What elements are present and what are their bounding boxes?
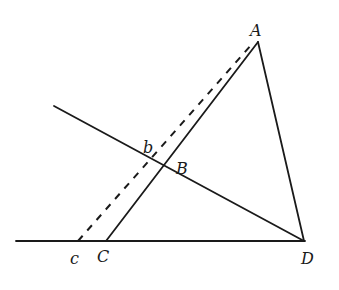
segment-ac [106,42,258,241]
label-d: D [300,249,314,268]
label-b-upper: B [175,159,188,178]
segment-ad [258,42,304,241]
geometry-diagram: A B C D b c [0,0,339,290]
label-c-upper: C [97,247,109,266]
dashed-line-cb [78,44,252,241]
label-b-lower: b [143,138,153,157]
label-c-lower: c [70,249,79,268]
label-a: A [248,21,262,40]
